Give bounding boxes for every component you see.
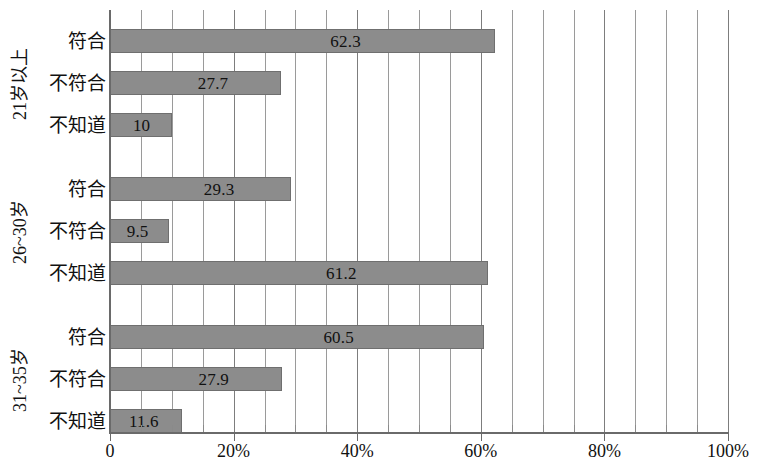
bar-value-label: 62.3 [330, 29, 361, 53]
bar-value-label: 11.6 [129, 409, 159, 433]
bar-row: 27.9 [110, 367, 728, 391]
x-tick-label-2: 40% [341, 441, 374, 462]
gridline-major [728, 10, 729, 432]
x-tick-minor [543, 425, 544, 432]
group-label-3: 31~35岁 [5, 320, 31, 440]
plot-area: 62.327.71029.39.561.260.527.911.6 [110, 10, 728, 432]
y-axis-line [109, 10, 111, 434]
category-label-3-3: 不知道 [28, 409, 106, 433]
category-label-3-2: 不符合 [28, 367, 106, 391]
x-tick-major [234, 434, 235, 441]
category-label-2-1: 符合 [28, 177, 106, 201]
x-tick-minor [666, 425, 667, 432]
bar-row: 62.3 [110, 29, 728, 53]
bar-chart: 62.327.71029.39.561.260.527.911.6 符合不符合不… [0, 0, 764, 468]
x-tick-minor [697, 425, 698, 432]
x-tick-minor [512, 425, 513, 432]
bar-value-label: 29.3 [204, 177, 235, 201]
bar-row: 61.2 [110, 261, 728, 285]
category-label-1-2: 不符合 [28, 71, 106, 95]
x-tick-label-1: 20% [217, 441, 250, 462]
bar-value-label: 27.7 [198, 71, 229, 95]
bar [110, 261, 488, 285]
x-tick-minor [265, 425, 266, 432]
bar-value-label: 10 [133, 113, 150, 137]
bar-row: 9.5 [110, 219, 728, 243]
x-tick-minor [450, 425, 451, 432]
x-tick-minor [295, 425, 296, 432]
bar-row: 29.3 [110, 177, 728, 201]
x-tick-major [481, 434, 482, 441]
bar-value-label: 9.5 [127, 219, 149, 243]
bar [110, 367, 282, 391]
bar [110, 71, 281, 95]
group-label-2: 26~30岁 [5, 172, 31, 292]
x-tick-major [110, 434, 111, 441]
x-tick-label-0: 0 [106, 441, 115, 462]
x-tick-minor [141, 425, 142, 432]
x-tick-major [604, 434, 605, 441]
category-label-2-2: 不符合 [28, 219, 106, 243]
x-tick-major [357, 434, 358, 441]
bar-row: 10 [110, 113, 728, 137]
bar [110, 325, 484, 349]
bar-value-label: 60.5 [323, 325, 354, 349]
x-tick-minor [388, 425, 389, 432]
x-tick-minor [574, 425, 575, 432]
x-tick-minor [419, 425, 420, 432]
category-label-3-1: 符合 [28, 325, 106, 349]
bar-row: 60.5 [110, 325, 728, 349]
x-tick-label-5: 100% [707, 441, 749, 462]
x-tick-label-3: 60% [464, 441, 497, 462]
category-label-1-1: 符合 [28, 29, 106, 53]
bar [110, 177, 291, 201]
category-label-2-3: 不知道 [28, 261, 106, 285]
x-tick-minor [172, 425, 173, 432]
x-axis-line [110, 432, 729, 434]
x-tick-minor [203, 425, 204, 432]
group-label-1: 21岁以上 [5, 24, 31, 144]
x-tick-major [728, 434, 729, 441]
category-label-1-3: 不知道 [28, 113, 106, 137]
x-tick-label-4: 80% [588, 441, 621, 462]
bar-row: 27.7 [110, 71, 728, 95]
bar-value-label: 61.2 [326, 261, 357, 285]
bar [110, 29, 495, 53]
x-tick-minor [326, 425, 327, 432]
bar-value-label: 27.9 [199, 367, 230, 391]
x-tick-minor [635, 425, 636, 432]
